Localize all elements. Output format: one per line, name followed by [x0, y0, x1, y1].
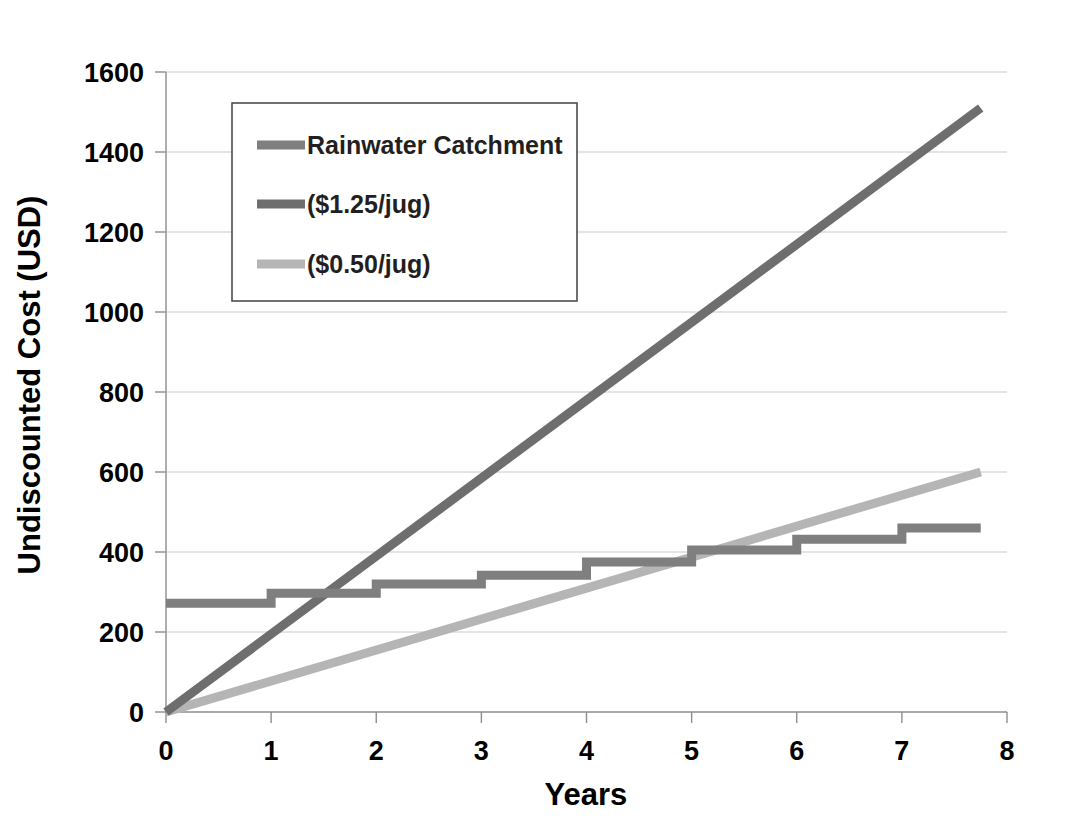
x-tick-label: 6 [789, 736, 804, 766]
x-tick-label: 2 [369, 736, 384, 766]
x-axis-title: Years [545, 777, 628, 812]
x-tick-label: 1 [264, 736, 279, 766]
x-tick-label: 4 [579, 736, 594, 766]
x-tick-labels-group: 012345678 [158, 736, 1014, 766]
y-tick-labels-group: 02004006008001000120014001600 [84, 58, 144, 728]
x-tick-label: 8 [999, 736, 1014, 766]
x-tick-label: 0 [158, 736, 173, 766]
legend: Rainwater Catchment($1.25/jug)($0.50/jug… [232, 103, 577, 301]
x-tick-label: 5 [684, 736, 699, 766]
y-tick-label: 1200 [84, 218, 144, 248]
legend-label: Rainwater Catchment [307, 131, 563, 159]
chart-container: 02004006008001000120014001600 012345678 … [0, 0, 1085, 840]
legend-label: ($0.50/jug) [307, 250, 431, 278]
y-tick-label: 200 [99, 618, 144, 648]
x-tick-label: 3 [474, 736, 489, 766]
legend-label: ($1.25/jug) [307, 190, 431, 218]
y-tick-label: 0 [129, 698, 144, 728]
chart-figure: 02004006008001000120014001600 012345678 … [0, 0, 1085, 840]
y-tick-label: 1000 [84, 298, 144, 328]
y-axis-title: Undiscounted Cost (USD) [12, 196, 47, 575]
x-tick-label: 7 [894, 736, 909, 766]
y-tick-label: 1400 [84, 138, 144, 168]
y-tick-label: 800 [99, 378, 144, 408]
y-tick-label: 600 [99, 458, 144, 488]
y-tick-label: 1600 [84, 58, 144, 88]
y-tick-label: 400 [99, 538, 144, 568]
